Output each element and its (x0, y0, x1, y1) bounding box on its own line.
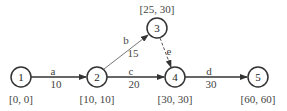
edge-b-weight: 15 (128, 48, 139, 59)
node-3-label: 3 (154, 23, 160, 34)
node-2-times: [10, 10] (80, 94, 115, 105)
edge-d-name: d (206, 66, 212, 77)
edge-c-weight: 20 (129, 79, 140, 90)
node-5-times: [60, 60] (241, 94, 276, 105)
edge-e-name: e (167, 46, 172, 57)
edge-c-name: c (129, 66, 134, 77)
edge-d-weight: 30 (206, 79, 217, 90)
node-5-label: 5 (255, 72, 261, 83)
edge-a-name: a (51, 66, 56, 77)
node-2-label: 2 (94, 72, 100, 83)
node-1-times: [0, 0] (9, 94, 33, 105)
edge-a-weight: 10 (51, 79, 62, 90)
node-3-times: [25, 30] (140, 4, 175, 15)
node-1-label: 1 (18, 72, 24, 83)
node-4-times: [30, 30] (158, 94, 193, 105)
node-4-label: 4 (172, 72, 178, 83)
edge-b-name: b (123, 35, 129, 46)
